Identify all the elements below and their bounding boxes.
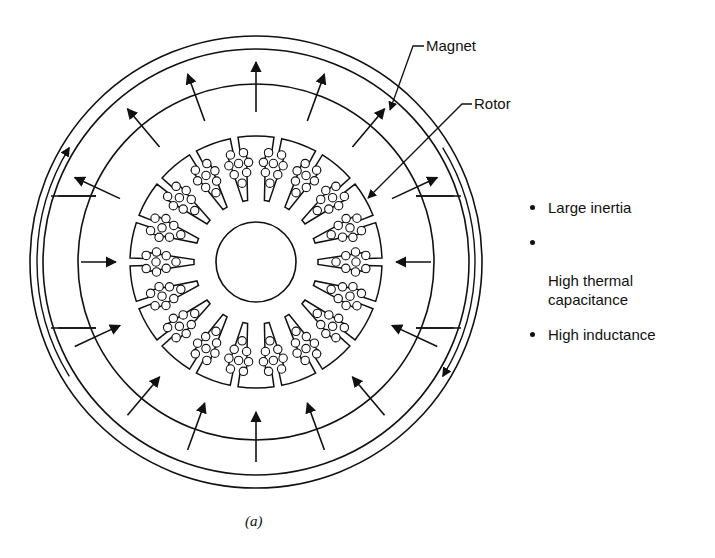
conductor — [264, 149, 272, 157]
conductor — [175, 322, 183, 330]
conductor — [292, 327, 300, 335]
flux-return-arc — [37, 148, 69, 377]
conductor — [191, 166, 199, 174]
conductor — [292, 189, 300, 197]
conductor — [346, 224, 354, 232]
conductor — [269, 159, 277, 167]
bullet-item: Large inertia — [528, 198, 656, 217]
conductor — [165, 233, 173, 241]
conductor — [362, 251, 370, 259]
conductor — [312, 350, 320, 358]
conductor — [312, 166, 320, 174]
bullet-dot-icon — [530, 332, 535, 337]
conductor — [175, 194, 183, 202]
outward-arrow — [127, 109, 159, 147]
conductor — [238, 179, 246, 187]
conductor — [244, 358, 252, 366]
conductor — [302, 183, 310, 191]
figure-caption: (a) — [245, 513, 263, 530]
rotor-label: Rotor — [474, 95, 511, 112]
conductor — [234, 356, 242, 364]
bullet-text: Large inertia — [548, 199, 631, 216]
conductor — [191, 350, 199, 358]
conductor — [340, 192, 348, 200]
conductor — [357, 289, 365, 297]
conductor — [172, 333, 180, 341]
conductor — [325, 205, 333, 213]
conductor — [238, 337, 246, 345]
conductor — [158, 292, 166, 300]
conductor — [172, 182, 180, 190]
conductor — [259, 358, 267, 366]
bullet-item: High inductance — [528, 325, 656, 344]
conductor — [151, 214, 159, 222]
bullet-dot-icon — [530, 205, 535, 210]
conductor — [338, 233, 346, 241]
conductor — [151, 302, 159, 310]
conductor — [146, 289, 154, 297]
conductor — [152, 248, 160, 256]
property-list: Large inertia High thermal capacitance H… — [528, 198, 656, 360]
inward-arrow — [188, 403, 205, 450]
conductor — [317, 195, 325, 203]
conductor — [342, 214, 350, 222]
conductor — [325, 311, 333, 319]
conductor — [226, 151, 234, 159]
conductor — [193, 339, 201, 347]
conductor — [291, 177, 299, 185]
conductor — [264, 367, 272, 375]
conductor — [317, 320, 325, 328]
conductor — [327, 285, 335, 293]
bullet-item: High thermal capacitance — [528, 233, 656, 309]
conductor — [334, 221, 342, 229]
conductor — [239, 367, 247, 375]
conductor — [152, 258, 160, 266]
conductor — [163, 323, 171, 331]
inward-arrow — [352, 377, 384, 415]
conductor — [239, 149, 247, 157]
conductor — [177, 230, 185, 238]
outward-arrow — [307, 74, 324, 121]
conductor — [352, 258, 360, 266]
conductor — [274, 345, 282, 353]
conductor — [342, 301, 350, 309]
conductor — [362, 264, 370, 272]
conductor — [165, 283, 173, 291]
conductor — [269, 356, 277, 364]
conductor — [302, 344, 310, 352]
conductor — [242, 347, 250, 355]
conductor — [351, 248, 359, 256]
conductor — [230, 345, 238, 353]
conductor — [313, 206, 321, 214]
conductor — [244, 158, 252, 166]
conductor — [338, 283, 346, 291]
conductor — [293, 349, 301, 357]
conductor — [162, 264, 170, 272]
conductor — [293, 167, 301, 175]
conductor — [211, 349, 219, 357]
conductor — [261, 347, 269, 355]
conductor — [191, 206, 199, 214]
outward-arrow — [352, 109, 384, 147]
conductor — [201, 332, 209, 340]
rotor-leader-line — [368, 104, 472, 198]
conductor — [332, 333, 340, 341]
conductor — [327, 230, 335, 238]
conductor — [310, 177, 318, 185]
conductor — [179, 311, 187, 319]
conductor — [342, 264, 350, 272]
conductor — [142, 251, 150, 259]
conductor — [212, 177, 220, 185]
conductor — [302, 171, 310, 179]
conductor — [211, 167, 219, 175]
conductor — [328, 322, 336, 330]
conductor — [349, 282, 357, 290]
inward-arrow — [127, 377, 159, 415]
bullet-text: High inductance — [548, 326, 656, 343]
conductor — [182, 186, 190, 194]
conductor — [146, 226, 154, 234]
conductor — [162, 214, 170, 222]
conductor — [351, 268, 359, 276]
conductor — [340, 323, 348, 331]
conductor — [193, 177, 201, 185]
